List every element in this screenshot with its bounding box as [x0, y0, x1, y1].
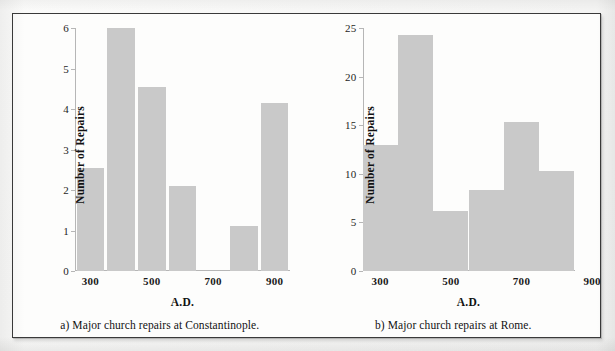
x-axis-tick-label: 500: [143, 275, 160, 287]
y-axis-tick: [71, 28, 75, 29]
y-axis-tick-label: 3: [45, 144, 69, 156]
figure-panels-container: 0123456300500700900 Number of Repairs A.…: [13, 14, 600, 337]
y-axis-tick: [359, 77, 363, 78]
x-axis-label-b: A.D.: [363, 296, 575, 308]
x-axis-tick-label: 300: [82, 275, 99, 287]
y-axis-tick: [359, 271, 363, 272]
chart-panel-constantinople: 0123456300500700900 Number of Repairs A.…: [13, 14, 307, 337]
panel-caption-b: b) Major church repairs at Rome.: [307, 319, 601, 331]
bar: [539, 171, 574, 271]
plot-area-b: 0510152025300500700900: [363, 28, 575, 271]
y-axis-tick-label: 0: [333, 265, 357, 277]
page-background: 0123456300500700900 Number of Repairs A.…: [0, 0, 615, 351]
y-axis-tick-label: 15: [333, 119, 357, 131]
x-axis-tick-label: 900: [266, 275, 283, 287]
y-axis-tick-label: 6: [45, 22, 69, 34]
y-axis-tick-label: 25: [333, 22, 357, 34]
panel-caption-a: a) Major church repairs at Constantinopl…: [13, 319, 307, 331]
y-axis-tick-label: 2: [45, 184, 69, 196]
bar: [230, 226, 258, 271]
y-axis-tick-label: 5: [333, 216, 357, 228]
bar: [169, 186, 197, 271]
y-axis-tick-label: 0: [45, 265, 69, 277]
y-axis-tick: [359, 125, 363, 126]
bar: [398, 35, 433, 271]
chart-panel-rome: 0510152025300500700900 Number of Repairs…: [307, 14, 601, 337]
bar: [504, 122, 539, 271]
y-axis-label-b: Number of Repairs: [363, 106, 375, 204]
bar: [469, 190, 504, 271]
y-axis-tick-label: 20: [333, 71, 357, 83]
y-axis-tick: [71, 231, 75, 232]
y-axis-tick-label: 1: [45, 225, 69, 237]
y-axis-label-a: Number of Repairs: [74, 106, 86, 204]
x-axis-tick-label: 700: [205, 275, 222, 287]
x-axis-label-a: A.D.: [75, 296, 290, 308]
y-axis-tick-label: 4: [45, 103, 69, 115]
y-axis-tick: [359, 28, 363, 29]
y-axis-tick-label: 10: [333, 168, 357, 180]
x-axis-tick-label: 700: [513, 275, 530, 287]
x-axis-tick-label: 900: [583, 275, 600, 287]
y-axis-tick: [71, 271, 75, 272]
x-axis-tick-label: 500: [442, 275, 459, 287]
bar: [138, 87, 166, 271]
x-axis-tick-label: 300: [371, 275, 388, 287]
figure-frame: 0123456300500700900 Number of Repairs A.…: [12, 13, 601, 338]
y-axis-tick-label: 5: [45, 63, 69, 75]
y-axis-tick: [71, 69, 75, 70]
bar: [107, 28, 135, 271]
bar: [433, 211, 468, 271]
bar: [261, 103, 289, 271]
plot-area-a: 0123456300500700900: [75, 28, 290, 271]
